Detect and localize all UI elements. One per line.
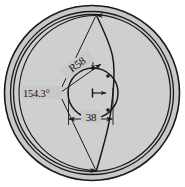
part-drawing-svg: R58 154.3° 38 [0,0,185,187]
angle-label: 154.3° [23,88,50,99]
tick-upper-intersection [106,74,110,78]
width-label: 38 [86,111,97,123]
engineering-drawing-canvas: R58 154.3° 38 [0,0,185,187]
tick-lower-intersection [106,108,110,112]
